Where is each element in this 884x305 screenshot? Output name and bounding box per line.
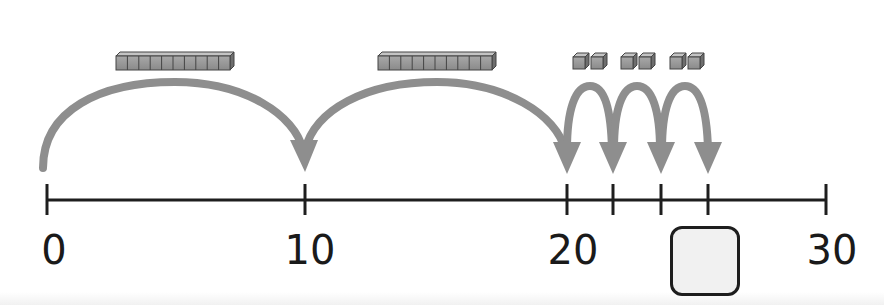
ten-rod-block-1 <box>116 52 234 70</box>
arrowhead-icon <box>290 140 318 172</box>
jump-arrow-0-to-10 <box>43 82 303 168</box>
bottom-shadow <box>0 292 884 305</box>
arrowhead-icon <box>694 142 722 174</box>
number-line-diagram <box>0 0 884 305</box>
arrowhead-icon <box>553 142 581 174</box>
jump-arrow-24-to-26 <box>662 86 708 150</box>
jump-arrow-20-to-22 <box>567 86 612 150</box>
unit-cubes-pair-1 <box>573 53 607 69</box>
arrowhead-icon <box>599 142 627 174</box>
jump-arrow-22-to-24 <box>614 86 660 150</box>
label-20: 20 <box>548 230 599 270</box>
unit-cubes-pair-2 <box>621 53 655 69</box>
unit-cubes-pair-3 <box>670 53 704 69</box>
answer-input-box[interactable] <box>670 226 740 296</box>
label-30: 30 <box>807 230 858 270</box>
ten-rod-block-2 <box>378 52 496 70</box>
label-0: 0 <box>41 230 66 270</box>
number-line <box>47 184 826 215</box>
jump-arrow-10-to-20 <box>305 82 565 150</box>
arrowhead-icon <box>647 142 675 174</box>
label-10: 10 <box>285 230 336 270</box>
